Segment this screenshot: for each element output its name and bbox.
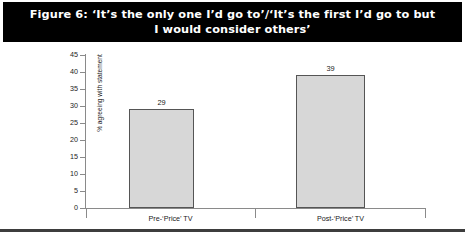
y-tick-mark — [80, 140, 86, 141]
category-tick-right — [425, 209, 426, 218]
y-tick-mark — [80, 72, 86, 73]
figure-bottom-border — [0, 229, 465, 232]
figure-6-chart: Figure 6: ‘It’s the only one I’d go to’/… — [0, 0, 465, 232]
y-tick-label: 40 — [58, 68, 78, 75]
y-tick-mark — [80, 157, 86, 158]
y-tick-mark — [80, 191, 86, 192]
y-tick-label-wrap: 35 — [58, 85, 78, 93]
y-tick-label-wrap: 25 — [58, 119, 78, 127]
y-tick-label-wrap: 15 — [58, 153, 78, 161]
page-title: Figure 6: ‘It’s the only one I’d go to’/… — [29, 7, 436, 37]
y-tick-label-wrap: 10 — [58, 170, 78, 178]
y-tick-label: 10 — [58, 170, 78, 177]
y-tick-label: 0 — [58, 204, 78, 211]
y-tick-mark — [80, 89, 86, 90]
bar-pre-price-tv — [129, 109, 194, 208]
y-tick-label: 15 — [58, 153, 78, 160]
y-tick-mark — [80, 106, 86, 107]
figure-title-band: Figure 6: ‘It’s the only one I’d go to’/… — [3, 2, 462, 42]
y-tick-label: 45 — [58, 51, 78, 58]
bar-value-label: 29 — [129, 99, 194, 106]
y-axis-line — [85, 54, 86, 209]
y-tick-label-wrap: 0 — [58, 204, 78, 212]
y-tick-label-wrap: 5 — [58, 187, 78, 195]
y-tick-label: 30 — [58, 102, 78, 109]
y-axis-label: % agreeing with statement — [95, 37, 105, 149]
y-tick-label-wrap: 20 — [58, 136, 78, 144]
y-tick-label: 20 — [58, 136, 78, 143]
y-tick-label: 35 — [58, 85, 78, 92]
y-tick-label: 25 — [58, 119, 78, 126]
bar-post-price-tv — [296, 75, 365, 208]
category-label-post-price-tv: Post-‘Price’ TV — [256, 215, 425, 222]
y-tick-label: 5 — [58, 187, 78, 194]
category-label-pre-price-tv: Pre-‘Price’ TV — [86, 215, 255, 222]
y-tick-mark — [80, 123, 86, 124]
y-tick-label-wrap: 45 — [58, 51, 78, 59]
y-tick-mark — [80, 174, 86, 175]
y-tick-label-wrap: 30 — [58, 102, 78, 110]
y-tick-mark — [80, 55, 86, 56]
bar-value-label: 39 — [296, 65, 365, 72]
y-tick-label-wrap: 40 — [58, 68, 78, 76]
